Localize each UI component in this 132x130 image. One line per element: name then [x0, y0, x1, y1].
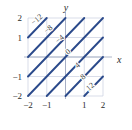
contour-plot-svg: −12−12−8−8−4−40044881212 −2−11221−1−2 x … [0, 0, 132, 130]
contour-level-label: −4 [54, 33, 66, 45]
y-axis-label: y [63, 2, 69, 13]
y-tick-label: −2 [12, 91, 22, 101]
x-axis-label: x [116, 54, 122, 65]
y-tick-label: 2 [18, 13, 23, 23]
x-tick-label: 1 [82, 100, 87, 110]
x-tick-label: −1 [42, 100, 52, 110]
tick-labels: −2−11221−1−2 [12, 13, 105, 110]
x-tick-label: −2 [23, 100, 33, 110]
contour-level-label: 12 [84, 81, 96, 93]
contour-level-label: −8 [42, 23, 54, 35]
contour-level-label: −12 [29, 12, 44, 27]
x-tick-label: 2 [101, 100, 106, 110]
y-tick-label: −1 [12, 72, 22, 82]
contour-plot-figure: −12−12−8−8−4−40044881212 −2−11221−1−2 x … [0, 0, 132, 130]
y-tick-label: 1 [18, 33, 23, 43]
